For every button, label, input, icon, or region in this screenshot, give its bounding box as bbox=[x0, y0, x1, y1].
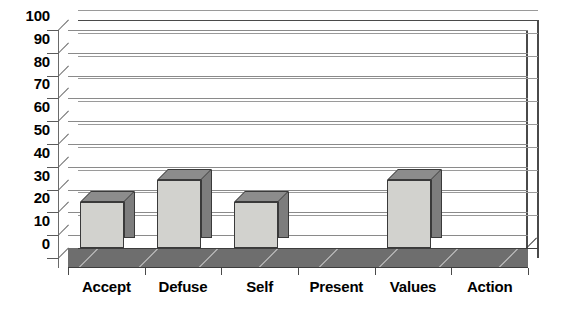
bar-front-face bbox=[157, 180, 201, 248]
floor-depth-line bbox=[498, 248, 519, 268]
y-tick-label: 50 bbox=[6, 122, 50, 137]
x-tick-mark bbox=[145, 268, 146, 275]
floor-3d bbox=[68, 248, 528, 268]
bar-chart: 1009080706050403020100 AcceptDefuseSelfP… bbox=[0, 0, 562, 318]
gridline bbox=[68, 144, 528, 145]
x-axis-ticks bbox=[68, 268, 548, 276]
y-tick-label: 30 bbox=[6, 167, 50, 182]
bar-side-face bbox=[431, 170, 442, 238]
plot-area bbox=[68, 20, 538, 268]
bar-front-face bbox=[80, 202, 124, 248]
gridline bbox=[78, 192, 538, 193]
gridline bbox=[68, 167, 528, 168]
gridline bbox=[68, 98, 528, 99]
gridline bbox=[78, 10, 538, 11]
x-tick-mark bbox=[298, 268, 299, 275]
floor-depth-line bbox=[318, 248, 339, 268]
y-tick-label: 100 bbox=[6, 8, 50, 23]
gridline bbox=[78, 124, 538, 125]
y-tick-label: 90 bbox=[6, 30, 50, 45]
x-axis-category-label: Defuse bbox=[159, 278, 208, 295]
plot-back-top-edge bbox=[78, 20, 538, 21]
bar bbox=[157, 170, 201, 248]
gridline bbox=[78, 147, 538, 148]
y-tick-label: 60 bbox=[6, 99, 50, 114]
bar-front-face bbox=[387, 180, 431, 248]
x-axis-category-label: Values bbox=[390, 278, 436, 295]
gridline bbox=[78, 33, 538, 34]
floor-depth-line bbox=[138, 248, 159, 268]
gridline bbox=[68, 121, 528, 122]
y-tick-label: 0 bbox=[6, 236, 50, 251]
gridline bbox=[78, 78, 538, 79]
y-tick-label: 80 bbox=[6, 53, 50, 68]
x-tick-mark bbox=[221, 268, 222, 275]
gridline bbox=[68, 212, 528, 213]
x-tick-mark bbox=[375, 268, 376, 275]
x-tick-mark bbox=[68, 268, 69, 275]
floor-depth-line bbox=[198, 248, 219, 268]
gridline bbox=[68, 30, 528, 31]
x-tick-mark bbox=[528, 268, 529, 275]
y-tick-label: 10 bbox=[6, 213, 50, 228]
gridline bbox=[78, 101, 538, 102]
y-axis: 1009080706050403020100 bbox=[4, 0, 50, 318]
x-axis-category-label: Action bbox=[467, 278, 512, 295]
bar bbox=[80, 192, 124, 248]
gridline bbox=[78, 56, 538, 57]
floor-depth-line bbox=[438, 248, 459, 268]
x-tick-mark bbox=[451, 268, 452, 275]
bar bbox=[234, 192, 278, 248]
x-axis-category-label: Self bbox=[246, 278, 273, 295]
x-axis-category-label: Present bbox=[310, 278, 364, 295]
gridline bbox=[78, 170, 538, 171]
bar bbox=[387, 170, 431, 248]
gridline bbox=[68, 235, 528, 236]
floor-depth-line bbox=[78, 248, 99, 268]
plot-front-panel bbox=[68, 30, 528, 268]
floor-top-edge bbox=[78, 248, 538, 249]
gridline bbox=[68, 53, 528, 54]
y-tick-label: 20 bbox=[6, 190, 50, 205]
x-axis-labels: AcceptDefuseSelfPresentValuesAction bbox=[68, 278, 548, 308]
gridline bbox=[68, 190, 528, 191]
x-axis-category-label: Accept bbox=[82, 278, 131, 295]
gridline bbox=[78, 215, 538, 216]
y-tick-label: 70 bbox=[6, 76, 50, 91]
floor-depth-line bbox=[378, 248, 399, 268]
y-tick-label: 40 bbox=[6, 144, 50, 159]
gridline bbox=[68, 76, 528, 77]
floor-depth-line bbox=[258, 248, 279, 268]
bar-front-face bbox=[234, 202, 278, 248]
bar-side-face bbox=[201, 170, 212, 238]
